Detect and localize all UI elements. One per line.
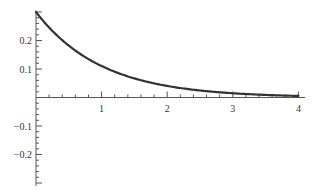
axes (36, 11, 305, 186)
y-tick-label: −0.2 (14, 149, 32, 160)
x-tick-label: 3 (230, 103, 235, 114)
y-tick-label: −0.1 (14, 121, 32, 132)
plot-area: 12340.20.1−0.1−0.2 (0, 0, 317, 195)
y-tick-label: 0.1 (20, 64, 33, 75)
ticks (36, 12, 298, 183)
x-tick-label: 4 (296, 103, 301, 114)
y-tick-label: 0.2 (20, 35, 33, 46)
x-tick-label: 1 (99, 103, 104, 114)
x-tick-label: 2 (165, 103, 170, 114)
data-curve (36, 12, 298, 96)
